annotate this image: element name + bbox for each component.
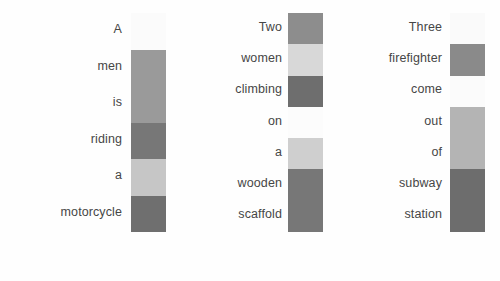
- heatmap-cell: [450, 76, 485, 107]
- heatmap-cell: [131, 13, 166, 50]
- word-label: riding: [91, 133, 122, 146]
- word-label: on: [268, 115, 282, 128]
- heatmap-cell: [450, 169, 485, 200]
- word-label: out: [424, 115, 442, 128]
- heatmap-cell: [131, 50, 166, 87]
- heatmap-cell: [288, 44, 323, 75]
- word-label: a: [115, 169, 122, 182]
- word-label: Three: [409, 21, 442, 34]
- heatmap-column-3: Threefirefightercomeoutofsubwaystation: [332, 0, 500, 281]
- word-label: is: [113, 96, 122, 109]
- heatmap-cell: [131, 159, 166, 196]
- word-label: come: [411, 83, 442, 96]
- heatmap-cell: [450, 44, 485, 75]
- heatmap-cell: [288, 107, 323, 138]
- word-label: wooden: [238, 177, 282, 190]
- heatmap-cell: [450, 13, 485, 44]
- attention-strip-1: [131, 13, 166, 232]
- heatmap-cell: [131, 86, 166, 123]
- word-label: a: [275, 146, 282, 159]
- word-label: women: [241, 52, 282, 65]
- heatmap-cell: [288, 13, 323, 44]
- attention-strip-2: [288, 13, 323, 232]
- word-label: A: [114, 23, 122, 36]
- heatmap-cell: [288, 169, 323, 200]
- word-label: firefighter: [389, 52, 442, 65]
- word-label: station: [404, 208, 442, 221]
- heatmap-cell: [288, 76, 323, 107]
- heatmap-cell: [131, 196, 166, 233]
- word-label: scaffold: [238, 208, 282, 221]
- heatmap-cell: [131, 123, 166, 160]
- word-label: subway: [399, 177, 442, 190]
- heatmap-cell: [450, 138, 485, 169]
- word-label: Two: [259, 21, 282, 34]
- attention-strip-3: [450, 13, 485, 232]
- heatmap-cell: [288, 201, 323, 232]
- heatmap-column-1: Amenisridingamotorcycle: [0, 0, 170, 281]
- heatmap-column-2: Twowomenclimbingonawoodenscaffold: [172, 0, 327, 281]
- word-label: men: [97, 60, 122, 73]
- word-label: of: [431, 146, 442, 159]
- heatmap-cell: [450, 107, 485, 138]
- word-label: motorcycle: [61, 206, 122, 219]
- word-label: climbing: [235, 83, 282, 96]
- attention-heatmap-figure: AmenisridingamotorcycleTwowomenclimbingo…: [0, 0, 500, 281]
- heatmap-cell: [450, 201, 485, 232]
- heatmap-cell: [288, 138, 323, 169]
